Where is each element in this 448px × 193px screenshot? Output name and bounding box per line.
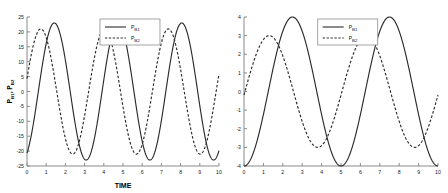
y-tick-label: -20: [17, 148, 25, 154]
y-tick-label: 0: [238, 89, 241, 95]
x-tick-label: 8: [398, 169, 401, 175]
x-tick-label: 6: [359, 169, 362, 175]
y-tick-label: 10: [18, 59, 24, 65]
y-tick-label: -1: [236, 107, 241, 113]
y-tick-label: 1: [238, 70, 241, 76]
y-tick-label: -10: [17, 118, 25, 124]
left-chart-svg: 012345678910-25-20-15-10-50510152025 PB1…: [0, 0, 224, 193]
legend-box: [318, 19, 378, 45]
y-tick-label: 2: [238, 51, 241, 57]
y-tick-label: 20: [18, 29, 24, 35]
y-tick-label: -5: [19, 103, 24, 109]
y-axis-title: PB1, PB2: [6, 79, 15, 103]
y-tick-label: 5: [21, 74, 24, 80]
x-tick-label: 1: [262, 169, 265, 175]
x-tick-label: 0: [26, 169, 29, 175]
right-legend: PB1PB2: [318, 19, 378, 45]
y-tick-label: 25: [18, 14, 24, 20]
y-tick-label: -4: [236, 163, 241, 169]
y-tick-label: -3: [236, 144, 241, 150]
x-tick-label: 0: [243, 169, 246, 175]
x-tick-label: 9: [198, 169, 201, 175]
chart-panel-left: 012345678910-25-20-15-10-50510152025 PB1…: [0, 0, 224, 193]
x-tick-label: 4: [102, 169, 105, 175]
x-tick-label: 5: [340, 169, 343, 175]
x-tick-label: 7: [378, 169, 381, 175]
legend-box: [100, 19, 160, 45]
y-tick-label: 0: [21, 89, 24, 95]
x-tick-label: 2: [281, 169, 284, 175]
x-tick-label: 3: [83, 169, 86, 175]
x-tick-label: 4: [320, 169, 323, 175]
figure-container: 012345678910-25-20-15-10-50510152025 PB1…: [0, 0, 448, 193]
y-tick-label: -15: [17, 133, 25, 139]
y-tick-label: -2: [236, 126, 241, 132]
x-tick-label: 5: [122, 169, 125, 175]
x-tick-label: 9: [417, 169, 420, 175]
series-dashed-P_B2: [244, 36, 438, 148]
left-legend: PB1PB2: [100, 19, 160, 45]
y-tick-label: 15: [18, 44, 24, 50]
x-tick-label: 2: [64, 169, 67, 175]
x-tick-label: 8: [179, 169, 182, 175]
x-tick-label: 3: [301, 169, 304, 175]
x-tick-label: 1: [45, 169, 48, 175]
x-tick-label: 6: [141, 169, 144, 175]
y-tick-label: -25: [17, 163, 25, 169]
right-chart-svg: 012345678910-4-3-2-101234 PB1PB2: [224, 0, 448, 193]
x-tick-label: 10: [216, 169, 222, 175]
x-tick-label: 10: [435, 169, 441, 175]
chart-panel-right: 012345678910-4-3-2-101234 PB1PB2: [224, 0, 448, 193]
y-tick-label: 3: [238, 33, 241, 39]
x-tick-label: 7: [160, 169, 163, 175]
x-axis-title: TIME: [115, 182, 132, 189]
y-tick-label: 4: [238, 14, 241, 20]
